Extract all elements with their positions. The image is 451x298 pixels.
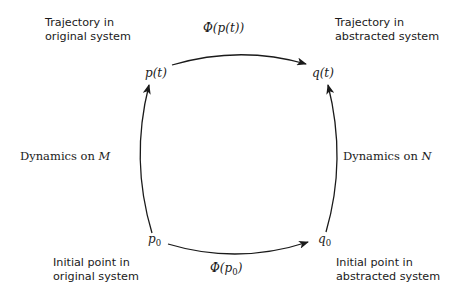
- label-initial-abstracted-line1: Initial point in: [336, 256, 440, 270]
- label-trajectory-abstracted-line2: abstracted system: [335, 30, 439, 44]
- label-trajectory-abstracted-line1: Trajectory in: [335, 16, 439, 30]
- edge-label-dynamics-n: Dynamics on N: [343, 149, 432, 163]
- label-trajectory-original: Trajectory in original system: [45, 16, 131, 44]
- label-initial-original-line2: original system: [53, 270, 139, 284]
- node-p-t: p(t): [145, 66, 167, 80]
- edge-label-dynamics-m: Dynamics on M: [20, 149, 110, 163]
- arrow-dynamics-n: [326, 85, 337, 232]
- edge-label-phi-p0-sub: 0: [232, 267, 237, 277]
- edge-label-phi-p-t-prefix: Φ(: [203, 21, 218, 35]
- edge-label-dynamics-m-text: Dynamics on: [20, 149, 99, 163]
- arrow-phi-top: [172, 55, 306, 65]
- edge-label-dynamics-n-symbol: N: [422, 149, 432, 163]
- edge-label-phi-p-t: Φ(p(t)): [203, 21, 244, 35]
- label-trajectory-abstracted: Trajectory in abstracted system: [335, 16, 439, 44]
- label-initial-abstracted: Initial point in abstracted system: [336, 256, 440, 284]
- label-initial-original: Initial point in original system: [53, 256, 139, 284]
- edge-label-phi-p0-suffix: ): [238, 261, 243, 275]
- edge-label-phi-p0: Φ(p0): [210, 261, 242, 276]
- node-p0-base: p: [148, 232, 156, 246]
- node-q0-sub: 0: [326, 238, 331, 248]
- node-p0: p0: [148, 232, 161, 247]
- edge-label-dynamics-m-symbol: M: [99, 149, 111, 163]
- node-q-t: q(t): [312, 66, 334, 80]
- node-q0-base: q: [318, 232, 326, 246]
- label-trajectory-original-line1: Trajectory in: [45, 16, 131, 30]
- node-p0-sub: 0: [156, 238, 161, 248]
- label-trajectory-original-line2: original system: [45, 30, 131, 44]
- label-initial-original-line1: Initial point in: [53, 256, 139, 270]
- node-q0: q0: [318, 232, 331, 247]
- label-initial-abstracted-line2: abstracted system: [336, 270, 440, 284]
- arrow-phi-bottom: [168, 242, 308, 254]
- edge-label-phi-p0-prefix: Φ(: [210, 261, 225, 275]
- arrow-dynamics-m: [140, 85, 152, 233]
- edge-label-dynamics-n-text: Dynamics on: [343, 149, 422, 163]
- edge-label-phi-p-t-arg: p(t): [218, 21, 240, 35]
- edge-label-phi-p-t-suffix: ): [239, 21, 244, 35]
